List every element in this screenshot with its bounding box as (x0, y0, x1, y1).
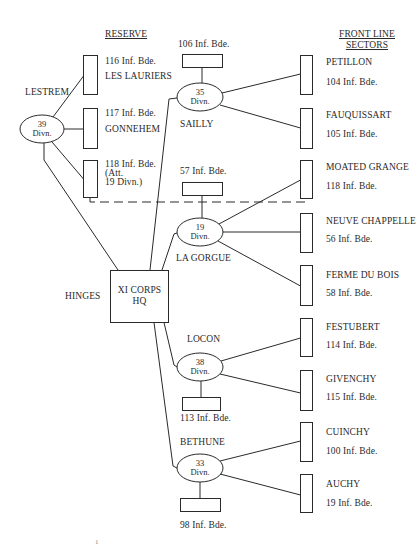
sector-box-fauquissart (301, 109, 313, 149)
division-38-location: LOCON (187, 334, 220, 345)
division-33-location: BETHUNE (180, 437, 225, 448)
page-number: 1 (95, 537, 99, 548)
corps-hq-line2: HQ (110, 296, 169, 307)
sector-box-neuve-chappelle (301, 214, 313, 253)
brigade-box-113 (183, 398, 221, 411)
brigade-box-106 (183, 55, 223, 68)
division-19-abbr: Divn. (178, 232, 222, 241)
corps-hq-line1: XI CORPS (110, 285, 169, 296)
sector-box-ferme-du-bois (301, 266, 313, 306)
division-35-reserve-brigade: 106 Inf. Bde. (178, 39, 229, 50)
sector-name-neuve-chappelle: NEUVE CHAPPELLE (326, 216, 416, 227)
sector-name-ferme-du-bois: FERME DU BOIS (326, 270, 399, 281)
sector-box-auchy (301, 475, 313, 513)
reserve-brigade-116-label: 116 Inf. Bde. (105, 56, 156, 67)
front-line-header-line1: FRONT LINE (322, 29, 412, 40)
brigade-box-57 (183, 183, 223, 196)
sector-box-givenchy (301, 371, 313, 411)
sector-brigade-auchy: 19 Inf. Bde. (326, 498, 373, 509)
sector-name-fauquissart: FAUQUISSART (326, 110, 391, 121)
sector-box-petillon (301, 56, 313, 95)
division-39-label: 39 Divn. (20, 120, 64, 138)
corps-hq-label: XI CORPS HQ (110, 285, 169, 307)
reserve-brigade-117-location: GONNEHEM (105, 124, 160, 135)
division-38-reserve-brigade: 113 Inf. Bde. (180, 413, 231, 424)
front-line-header-line2: SECTORS (322, 40, 412, 51)
front-line-header: FRONT LINE SECTORS (322, 29, 412, 51)
division-39-abbr: Divn. (20, 129, 64, 138)
sector-name-moated-grange: MOATED GRANGE (326, 162, 409, 173)
division-39-location: LESTREM (25, 87, 69, 98)
division-33-label: 33 Divn. (178, 459, 222, 477)
reserve-brigade-118-note2: 19 Divn.) (105, 177, 142, 188)
division-35-label: 35 Divn. (178, 88, 222, 106)
sector-name-cuinchy: CUINCHY (326, 427, 370, 438)
sector-brigade-fauquissart: 105 Inf. Bde. (326, 129, 377, 140)
sector-name-auchy: AUCHY (326, 479, 360, 490)
brigade-box-118 (84, 161, 98, 198)
brigade-box-98 (181, 499, 221, 512)
reserve-header: RESERVE (105, 29, 147, 40)
sector-brigade-moated-grange: 118 Inf. Bde. (326, 181, 377, 192)
division-38-label: 38 Divn. (178, 358, 222, 376)
sector-brigade-petillon: 104 Inf. Bde. (326, 77, 377, 88)
sector-box-festubert (301, 319, 313, 357)
division-35-location: SAILLY (180, 119, 213, 130)
sector-name-festubert: FESTUBERT (326, 322, 380, 333)
division-38-abbr: Divn. (178, 367, 222, 376)
sector-box-moated-grange (301, 161, 313, 199)
division-19-label: 19 Divn. (178, 223, 222, 241)
division-33-abbr: Divn. (178, 468, 222, 477)
reserve-brigade-117-label: 117 Inf. Bde. (105, 108, 156, 119)
brigade-box-116 (84, 56, 98, 95)
sector-brigade-festubert: 114 Inf. Bde. (326, 340, 377, 351)
sector-brigade-givenchy: 115 Inf. Bde. (326, 392, 377, 403)
division-35-abbr: Divn. (178, 97, 222, 106)
sector-box-cuinchy (301, 423, 313, 462)
division-33-reserve-brigade: 98 Inf. Bde. (180, 520, 227, 531)
sector-name-petillon: PETILLON (326, 57, 372, 68)
sector-brigade-ferme-du-bois: 58 Inf. Bde. (326, 288, 373, 299)
sector-brigade-cuinchy: 100 Inf. Bde. (326, 446, 377, 457)
sector-name-givenchy: GIVENCHY (326, 374, 376, 385)
division-19-reserve-brigade: 57 Inf. Bde. (180, 166, 227, 177)
division-19-location: LA GORGUE (176, 253, 231, 264)
sector-brigade-neuve-chappelle: 56 Inf. Bde. (326, 234, 373, 245)
brigade-box-117 (84, 109, 98, 149)
corps-hq-location: HINGES (65, 291, 100, 302)
reserve-brigade-116-location: LES LAURIERS (105, 71, 172, 82)
